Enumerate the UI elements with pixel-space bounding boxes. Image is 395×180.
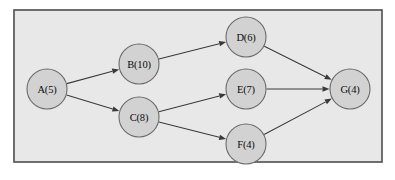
node-label-b: B(10): [127, 59, 151, 71]
graph-node-b[interactable]: B(10): [119, 44, 159, 84]
node-label-c: C(8): [130, 112, 149, 124]
activity-network-diagram: A(5)B(10)C(8)D(6)E(7)F(4)G(4): [0, 0, 395, 180]
node-label-f: F(4): [237, 139, 255, 151]
graph-node-a[interactable]: A(5): [27, 69, 67, 109]
graph-node-c[interactable]: C(8): [119, 97, 159, 137]
figure-root: A(5)B(10)C(8)D(6)E(7)F(4)G(4): [0, 0, 395, 180]
node-label-a: A(5): [37, 84, 57, 96]
graph-node-d[interactable]: D(6): [226, 17, 266, 57]
diagram-panel: [14, 10, 382, 162]
graph-node-g[interactable]: G(4): [330, 69, 370, 109]
node-label-g: G(4): [340, 84, 360, 96]
node-label-d: D(6): [236, 32, 256, 44]
node-label-e: E(7): [237, 84, 256, 96]
graph-node-e[interactable]: E(7): [226, 69, 266, 109]
graph-node-f[interactable]: F(4): [226, 124, 266, 164]
